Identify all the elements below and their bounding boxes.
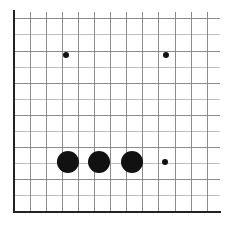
data-point-large-dot-2 bbox=[88, 151, 110, 173]
data-point-large-dot-1 bbox=[57, 151, 79, 173]
data-point-large-dot-3 bbox=[121, 151, 143, 173]
data-point-small-dot-2 bbox=[63, 52, 69, 58]
data-point-small-dot-1 bbox=[162, 159, 168, 165]
plot-canvas bbox=[0, 0, 241, 229]
data-point-small-dot-3 bbox=[163, 52, 169, 58]
scatter-plot-figure bbox=[0, 0, 241, 229]
plot-background bbox=[0, 0, 241, 229]
